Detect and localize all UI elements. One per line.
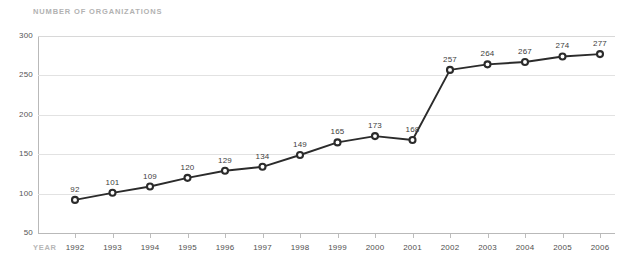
data-point-marker[interactable]: [485, 61, 491, 67]
data-point-marker[interactable]: [147, 184, 153, 190]
data-point-label: 129: [218, 157, 232, 165]
data-point-marker[interactable]: [410, 137, 416, 143]
data-point-marker[interactable]: [222, 168, 228, 174]
data-point-label: 274: [556, 42, 570, 50]
data-point-label: 165: [331, 128, 345, 136]
line-chart: NUMBER OF ORGANIZATIONS 5010015020025030…: [0, 0, 631, 274]
data-point-marker[interactable]: [560, 53, 566, 59]
data-point-label: 173: [368, 122, 382, 130]
data-point-label: 168: [406, 126, 420, 134]
data-point-label: 257: [443, 56, 457, 64]
data-point-label: 92: [70, 186, 79, 194]
data-point-marker[interactable]: [72, 197, 78, 203]
data-point-label: 120: [181, 164, 195, 172]
data-point-marker[interactable]: [522, 59, 528, 65]
data-point-label: 267: [518, 48, 532, 56]
data-point-marker[interactable]: [185, 175, 191, 181]
data-point-marker[interactable]: [110, 190, 116, 196]
data-point-label: 109: [143, 173, 157, 181]
data-point-label: 101: [106, 179, 120, 187]
data-point-marker[interactable]: [597, 51, 603, 57]
series-line-group: [0, 0, 631, 274]
data-point-label: 149: [293, 141, 307, 149]
data-point-marker[interactable]: [335, 139, 341, 145]
data-point-label: 277: [593, 40, 607, 48]
data-point-label: 264: [481, 50, 495, 58]
data-point-marker[interactable]: [260, 164, 266, 170]
data-point-marker[interactable]: [447, 67, 453, 73]
data-point-marker[interactable]: [297, 152, 303, 158]
data-point-label: 134: [256, 153, 270, 161]
data-point-marker[interactable]: [372, 133, 378, 139]
